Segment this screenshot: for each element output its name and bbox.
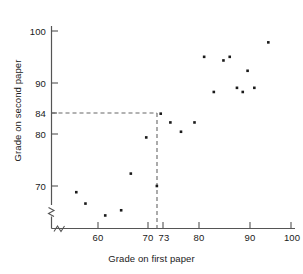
reference-guide-lines bbox=[52, 113, 158, 229]
x-tick-label-60: 60 bbox=[86, 232, 110, 243]
data-point bbox=[246, 69, 249, 72]
data-point bbox=[267, 41, 270, 44]
data-point bbox=[213, 91, 216, 94]
y-axis-break-icon bbox=[49, 208, 55, 217]
scatter-plot-figure: 100 90 84 80 70 60 70 73 80 90 100 Grade… bbox=[0, 0, 303, 274]
data-point bbox=[75, 191, 78, 194]
data-point bbox=[193, 121, 196, 124]
y-tick-label-84: 84 bbox=[22, 108, 46, 119]
y-axis-ticks bbox=[52, 31, 59, 186]
data-point bbox=[180, 130, 183, 133]
data-point bbox=[169, 121, 172, 124]
x-tick-label-90: 90 bbox=[238, 232, 262, 243]
x-axis-break-icon bbox=[54, 226, 65, 232]
x-tick-label-100: 100 bbox=[279, 232, 303, 243]
y-axis-title: Grade on second paper bbox=[12, 41, 23, 181]
x-tick-label-80: 80 bbox=[187, 232, 211, 243]
data-point bbox=[156, 185, 159, 188]
axis-lines bbox=[49, 26, 296, 232]
x-axis-ticks bbox=[98, 222, 291, 229]
data-point bbox=[241, 91, 244, 94]
y-tick-label-80: 80 bbox=[22, 129, 46, 140]
data-point bbox=[120, 209, 123, 212]
y-tick-label-90: 90 bbox=[22, 78, 46, 89]
data-point bbox=[222, 59, 225, 62]
data-point bbox=[203, 56, 206, 59]
x-tick-label-73: 73 bbox=[152, 232, 176, 243]
data-point bbox=[84, 202, 87, 205]
data-point bbox=[236, 87, 239, 90]
data-point bbox=[253, 87, 256, 90]
data-point bbox=[104, 214, 107, 217]
data-point bbox=[159, 112, 162, 115]
data-point-series bbox=[75, 41, 270, 217]
y-tick-label-100: 100 bbox=[22, 26, 46, 37]
data-point bbox=[228, 56, 231, 59]
x-axis-title: Grade on first paper bbox=[0, 253, 303, 264]
y-tick-label-70: 70 bbox=[22, 181, 46, 192]
data-point bbox=[130, 172, 133, 175]
data-point bbox=[145, 136, 148, 139]
